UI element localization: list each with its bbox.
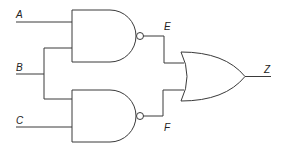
label-f: F [164, 122, 171, 133]
or-gate [181, 52, 245, 101]
nand-gate-top [72, 10, 144, 62]
label-a: A [15, 9, 23, 20]
wire-f [144, 90, 185, 116]
nand-gate-bottom [72, 90, 144, 142]
label-z: Z [263, 64, 271, 75]
label-b: B [16, 62, 23, 73]
logic-circuit-diagram: A B C E F Z [0, 0, 283, 149]
wire-e [144, 36, 185, 63]
label-e: E [164, 21, 171, 32]
inversion-bubble-icon [137, 33, 144, 40]
label-c: C [16, 115, 24, 126]
inversion-bubble-icon [137, 113, 144, 120]
